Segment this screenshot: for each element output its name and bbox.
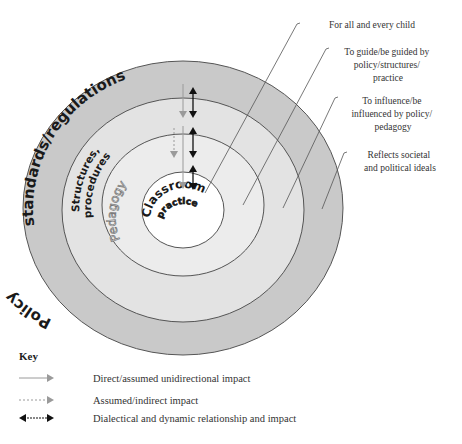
key-item-direct: Direct/assumed unidirectional impact <box>19 373 251 384</box>
svg-text:Assumed/indirect impact: Assumed/indirect impact <box>93 395 198 406</box>
double-arrow-icon <box>19 414 26 422</box>
annotation-structures: To influence/be influenced by policy/ pe… <box>351 96 434 132</box>
annotation-pedagogy: To guide/be guided by policy/structures/… <box>344 47 431 83</box>
key-title: Key <box>19 350 38 362</box>
svg-text:Dialectical and dynamic relati: Dialectical and dynamic relationship and… <box>93 413 296 424</box>
dotted-arrow-icon <box>47 396 54 404</box>
ecological-diagram: Policy standards/regulations Structures,… <box>0 0 462 444</box>
key-legend: Key Direct/assumed unidirectional impact… <box>19 350 296 424</box>
policy-label: Policy <box>1 288 54 332</box>
annotation-policy: Reflects societal and political ideals <box>364 150 436 173</box>
annotation-classroom: For all and every child <box>329 20 415 30</box>
key-item-indirect: Assumed/indirect impact <box>19 395 198 406</box>
key-item-dialectical: Dialectical and dynamic relationship and… <box>19 413 296 424</box>
gray-arrow-icon <box>47 374 54 382</box>
svg-text:Direct/assumed unidirectional: Direct/assumed unidirectional impact <box>93 373 251 384</box>
